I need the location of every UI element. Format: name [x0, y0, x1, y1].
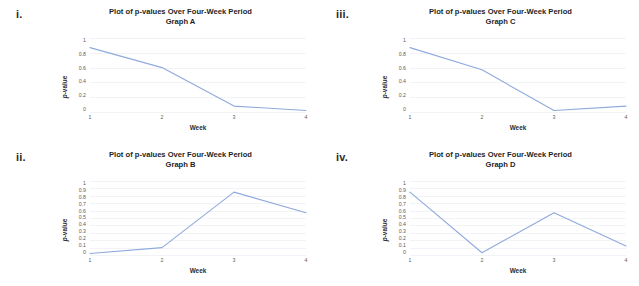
chart-title-main-ii: Plot of p-values Over Four-Week Period [109, 150, 252, 159]
chart-subtitle-ii: Graph B [52, 160, 309, 170]
y-tick-label: 0.9 [79, 187, 86, 192]
y-tick-label: 0.8 [399, 194, 406, 199]
chart-subtitle-iii: Graph C [372, 17, 629, 27]
y-tick-label: 0.5 [79, 215, 86, 220]
x-tick-label: 4 [305, 114, 308, 120]
plot-area-iii [410, 38, 626, 112]
y-tick-label: 1 [403, 38, 406, 43]
y-tick-label: 0.1 [79, 242, 86, 247]
series-polyline [90, 192, 306, 253]
y-tick-label: 0.2 [79, 236, 86, 241]
chart-panel-ii: ii. Plot of p-values Over Four-Week Peri… [0, 143, 319, 286]
chart-panel-i: i. Plot of p-values Over Four-Week Perio… [0, 0, 319, 143]
x-tick-label: 3 [553, 257, 556, 263]
chart-title-iii: Plot of p-values Over Four-Week Period G… [372, 7, 629, 28]
grid-line [410, 112, 626, 113]
y-tick-label: 0 [403, 249, 406, 254]
y-tick-label: 0 [83, 249, 86, 254]
y-tick-label: 0.4 [79, 79, 86, 84]
series-polyline [410, 192, 626, 253]
y-tick-label: 1 [403, 181, 406, 186]
panel-enumerator-iv: iv. [336, 151, 348, 163]
chart-title-main-i: Plot of p-values Over Four-Week Period [109, 7, 252, 16]
x-axis-label-ii: Week [90, 267, 306, 274]
y-axis-ticks-i: 10.80.60.40.20 [64, 38, 86, 112]
x-tick-label: 3 [233, 257, 236, 263]
plot-area-iv [410, 181, 626, 255]
chart-title-main-iii: Plot of p-values Over Four-Week Period [429, 7, 572, 16]
series-polyline [90, 48, 306, 111]
y-tick-label: 0.6 [399, 65, 406, 70]
x-axis-label-iii: Week [410, 124, 626, 131]
y-tick-label: 0.5 [399, 215, 406, 220]
x-tick-label: 2 [481, 257, 484, 263]
plot-area-i [90, 38, 306, 112]
y-axis-ticks-iv: 10.90.80.70.60.50.40.30.20.10 [384, 181, 406, 255]
y-tick-label: 0.8 [79, 194, 86, 199]
y-axis-ticks-ii: 10.90.80.70.60.50.40.30.20.10 [64, 181, 86, 255]
grid-line [90, 112, 306, 113]
y-tick-label: 0.9 [399, 187, 406, 192]
y-tick-label: 0 [403, 106, 406, 111]
y-tick-label: 1 [83, 181, 86, 186]
x-tick-label: 1 [409, 114, 412, 120]
chart-title-ii: Plot of p-values Over Four-Week Period G… [52, 150, 309, 171]
y-tick-label: 0.7 [79, 201, 86, 206]
x-tick-label: 2 [481, 114, 484, 120]
chart-title-i: Plot of p-values Over Four-Week Period G… [52, 7, 309, 28]
y-tick-label: 0 [83, 106, 86, 111]
y-axis-ticks-iii: 10.80.60.40.20 [384, 38, 406, 112]
x-tick-label: 4 [625, 114, 628, 120]
y-tick-label: 0.4 [79, 222, 86, 227]
chart-title-iv: Plot of p-values Over Four-Week Period G… [372, 150, 629, 171]
series-polyline [410, 48, 626, 111]
plot-wrap-iv: p-value 10.90.80.70.60.50.40.30.20.10 12… [372, 181, 630, 279]
panel-enumerator-iii: iii. [336, 8, 349, 20]
y-tick-label: 0.3 [399, 229, 406, 234]
series-line-iv [410, 181, 626, 255]
chart-panel-iv: iv. Plot of p-values Over Four-Week Peri… [320, 143, 639, 286]
series-line-iii [410, 38, 626, 112]
panel-enumerator-i: i. [16, 8, 23, 20]
y-tick-label: 0.7 [399, 201, 406, 206]
chart-subtitle-iv: Graph D [372, 160, 629, 170]
x-tick-label: 1 [89, 114, 92, 120]
y-tick-label: 1 [83, 38, 86, 43]
y-tick-label: 0.8 [399, 51, 406, 56]
y-tick-label: 0.6 [79, 208, 86, 213]
series-line-i [90, 38, 306, 112]
panel-enumerator-ii: ii. [16, 151, 26, 163]
x-axis-label-iv: Week [410, 267, 626, 274]
x-tick-label: 3 [553, 114, 556, 120]
y-tick-label: 0.2 [399, 236, 406, 241]
x-tick-label: 1 [409, 257, 412, 263]
y-tick-label: 0.6 [399, 208, 406, 213]
y-tick-label: 0.1 [399, 242, 406, 247]
y-tick-label: 0.4 [399, 79, 406, 84]
plot-area-ii [90, 181, 306, 255]
x-axis-label-i: Week [90, 124, 306, 131]
y-tick-label: 0.4 [399, 222, 406, 227]
plot-wrap-i: p-value 10.80.60.40.20 1234 Week [52, 38, 310, 136]
x-tick-label: 3 [233, 114, 236, 120]
grid-line [90, 255, 306, 256]
figure-sheet: i. Plot of p-values Over Four-Week Perio… [0, 0, 639, 286]
chart-subtitle-i: Graph A [52, 17, 309, 27]
x-tick-label: 4 [305, 257, 308, 263]
grid-line [410, 255, 626, 256]
series-line-ii [90, 181, 306, 255]
y-tick-label: 0.2 [399, 93, 406, 98]
plot-wrap-ii: p-value 10.90.80.70.60.50.40.30.20.10 12… [52, 181, 310, 279]
y-tick-label: 0.8 [79, 51, 86, 56]
x-tick-label: 1 [89, 257, 92, 263]
chart-panel-iii: iii. Plot of p-values Over Four-Week Per… [320, 0, 639, 143]
x-tick-label: 4 [625, 257, 628, 263]
y-tick-label: 0.2 [79, 93, 86, 98]
x-tick-label: 2 [161, 257, 164, 263]
chart-title-main-iv: Plot of p-values Over Four-Week Period [429, 150, 572, 159]
x-tick-label: 2 [161, 114, 164, 120]
plot-wrap-iii: p-value 10.80.60.40.20 1234 Week [372, 38, 630, 136]
y-tick-label: 0.3 [79, 229, 86, 234]
y-tick-label: 0.6 [79, 65, 86, 70]
